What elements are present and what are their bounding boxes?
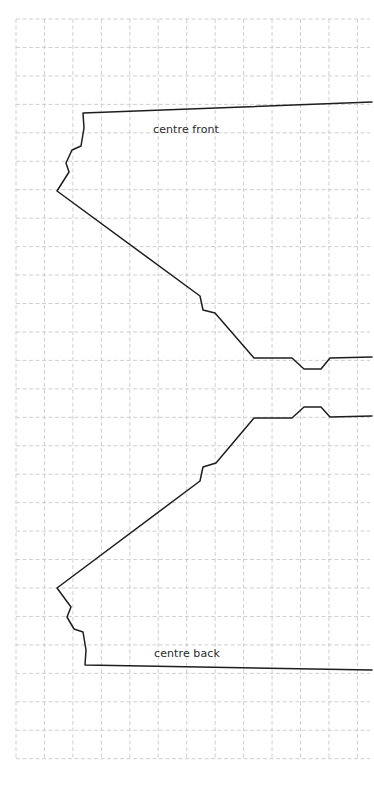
- centre-front-label: centre front: [153, 123, 219, 136]
- pattern-pieces: [57, 102, 372, 670]
- back-piece-outline: [57, 407, 372, 670]
- centre-back-label: centre back: [154, 647, 220, 660]
- pattern-diagram: [0, 0, 374, 785]
- front-piece-outline: [57, 102, 372, 369]
